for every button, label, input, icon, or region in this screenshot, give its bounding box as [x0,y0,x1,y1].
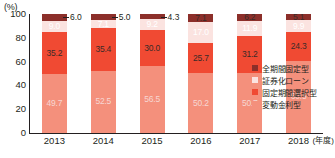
bar-segment[interactable]: 35.2 [42,32,67,74]
bar-segment[interactable]: 50.2 [188,73,213,133]
x-axis-unit-label: (年度) [313,137,334,145]
y-axis-tick-label: 0 [0,128,26,138]
bar-segment[interactable]: 52.5 [91,71,116,133]
stacked-bar[interactable]: 6.09.035.249.7 [42,14,67,133]
bar-segment[interactable]: 6.2 [237,14,262,21]
x-axis-tick-label: 2017 [230,136,270,146]
x-axis-tick-label: 2016 [181,136,221,146]
legend-color-swatch [252,77,258,83]
bar-segment-value-label: 9.0 [49,22,60,31]
bar-segment-value-label: 9.2 [146,20,157,29]
bar-segment[interactable]: 7.1 [91,20,116,28]
y-axis-tick-label: 80 [0,33,26,43]
bar-group: 7.117.025.750.2 [188,14,213,133]
y-axis-tick-label: 40 [0,80,26,90]
legend-item[interactable]: 変動金利型 [252,98,317,110]
legend-item-label: 全期間固定型 [262,63,309,74]
legend-item-label: 固定期間選択型 [262,87,317,98]
bar-segment-value-label: 11.9 [242,24,257,33]
legend-item-label: 証券化ローン [262,75,309,86]
legend-color-swatch [252,65,258,71]
x-axis-line [29,133,323,134]
legend-item[interactable]: 証券化ローン [252,74,317,86]
legend-color-swatch [252,89,258,95]
bar-segment-callout-label: 4.3 [168,13,180,22]
stacked-bar[interactable]: 4.39.230.056.5 [140,14,165,133]
x-axis-tick-label: 2013 [34,136,74,146]
bar-group: 4.39.230.056.5 [140,14,165,133]
bar-segment[interactable]: 9.2 [140,19,165,30]
legend-item[interactable]: 全期間固定型 [252,62,317,74]
bar-segment-value-label: 35.4 [95,45,111,54]
bar-segment[interactable]: 35.4 [91,28,116,70]
bar-segment-value-label: 24.3 [291,42,307,51]
bar-segment[interactable]: 9.0 [42,21,67,32]
bar-segment-value-label: 9.9 [293,22,304,31]
y-axis-tick-label: 60 [0,57,26,67]
x-axis-tick-label: 2015 [132,136,172,146]
bar-segment-value-label: 25.7 [193,54,209,63]
bar-segment[interactable]: 49.7 [42,74,67,133]
y-axis-tick-label: 100 [0,9,26,19]
stacked-bar-chart: (%) 020406080100 6.09.035.249.75.07.135.… [0,0,335,158]
bar-segment[interactable]: 56.5 [140,66,165,133]
bar-segment-value-label: 50.2 [193,99,209,108]
bar-group: 5.07.135.452.5 [91,14,116,133]
bar-segment-value-label: 52.5 [95,97,111,106]
bar-segment[interactable]: 24.3 [286,32,311,61]
bar-segment-callout-label: 6.0 [70,13,82,22]
legend-item-label: 変動金利型 [262,99,301,110]
bar-segment[interactable]: 6.0 [42,14,67,21]
bar-segment[interactable]: 9.9 [286,20,311,32]
bar-segment[interactable]: 7.1 [188,14,213,22]
bar-group: 6.09.035.249.7 [42,14,67,133]
legend-item[interactable]: 固定期間選択型 [252,86,317,98]
bar-segment-value-label: 49.7 [47,99,63,108]
bar-segment[interactable]: 17.0 [188,22,213,42]
bar-segment[interactable]: 30.0 [140,30,165,66]
bar-segment[interactable]: 11.9 [237,21,262,35]
bar-segment-callout-label: 5.0 [119,13,131,22]
legend-color-swatch [252,101,258,107]
bar-segment-value-label: 31.2 [242,50,258,59]
bar-segment[interactable]: 25.7 [188,43,213,74]
chart-legend: 全期間固定型証券化ローン固定期間選択型変動金利型 [252,62,317,110]
bar-segment-value-label: 56.5 [144,95,160,104]
stacked-bar[interactable]: 7.117.025.750.2 [188,14,213,133]
bar-segment-value-label: 17.0 [193,28,209,37]
bar-segment-value-label: 35.2 [47,49,63,58]
bar-segment-value-label: 7.1 [98,20,109,29]
y-axis-tick-label: 20 [0,104,26,114]
x-axis-tick-label: 2014 [83,136,123,146]
stacked-bar[interactable]: 5.07.135.452.5 [91,14,116,133]
bar-segment-value-label: 7.1 [195,14,206,23]
bar-segment-value-label: 30.0 [144,44,160,53]
